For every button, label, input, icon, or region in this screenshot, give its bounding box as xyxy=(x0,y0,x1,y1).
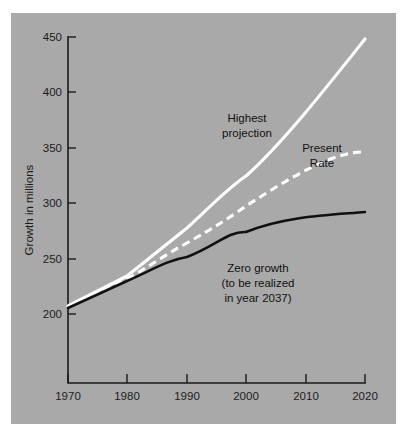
annotation-zero-line-3: in year 2037) xyxy=(224,292,291,304)
y-axis-ticks xyxy=(68,37,76,314)
population-growth-line-chart: 450 400 350 300 250 200 1970 1980 1990 2… xyxy=(0,0,410,436)
y-tick-label-400: 400 xyxy=(43,86,62,98)
y-tick-label-450: 450 xyxy=(43,31,62,43)
annotation-present-line-1: Present xyxy=(302,142,342,154)
chart-figure: 450 400 350 300 250 200 1970 1980 1990 2… xyxy=(0,0,410,436)
axis-lines xyxy=(68,37,365,383)
x-tick-label-2020: 2020 xyxy=(352,390,378,402)
annotation-highest-projection: Highest projection xyxy=(222,112,272,139)
x-axis-ticks xyxy=(68,374,365,383)
x-tick-label-1970: 1970 xyxy=(55,390,81,402)
annotation-zero-growth: Zero growth (to be realized in year 2037… xyxy=(222,262,295,304)
y-axis-title: Growth in millions xyxy=(23,164,35,255)
annotation-present-rate: Present Rate xyxy=(302,142,342,169)
x-tick-label-2010: 2010 xyxy=(293,390,319,402)
x-tick-label-1980: 1980 xyxy=(114,390,140,402)
y-tick-label-300: 300 xyxy=(43,197,62,209)
annotation-zero-line-1: Zero growth xyxy=(227,262,288,274)
y-tick-label-350: 350 xyxy=(43,142,62,154)
annotation-zero-line-2: (to be realized xyxy=(222,277,295,289)
x-tick-label-2000: 2000 xyxy=(233,390,259,402)
annotation-highest-line-2: projection xyxy=(222,127,272,139)
series-line-highest-projection xyxy=(68,39,365,306)
y-tick-label-200: 200 xyxy=(43,308,62,320)
x-tick-label-1990: 1990 xyxy=(174,390,200,402)
annotation-present-line-2: Rate xyxy=(310,157,334,169)
y-tick-label-250: 250 xyxy=(43,253,62,265)
annotation-highest-line-1: Highest xyxy=(228,112,268,124)
